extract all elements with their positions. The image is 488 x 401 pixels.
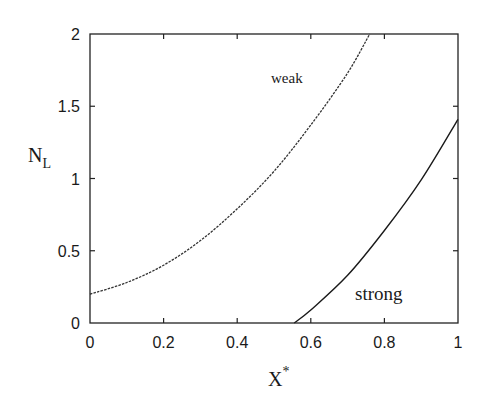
x-tick-label: 0.4	[226, 334, 248, 351]
x-axis-label-main: X	[268, 368, 283, 390]
y-axis-label-main: N	[28, 144, 42, 166]
y-tick-label: 0.5	[58, 243, 80, 260]
y-tick-label: 0	[71, 315, 80, 332]
weak-curve	[90, 34, 370, 294]
x-tick-label: 0	[86, 334, 95, 351]
y-axis-label: NL	[28, 144, 51, 171]
y-tick-label: 2	[71, 26, 80, 43]
x-tick-label: 1	[454, 334, 463, 351]
weak-curve-label: weak	[271, 70, 303, 86]
y-axis-label-sub: L	[42, 156, 51, 171]
strong-curve-label: strong	[355, 283, 403, 304]
y-tick-label: 1	[71, 171, 80, 188]
x-tick-label: 0.6	[300, 334, 322, 351]
x-axis-label-sup: *	[282, 364, 289, 379]
x-axis-label: X*	[268, 364, 289, 390]
x-tick-label: 0.2	[152, 334, 174, 351]
x-tick-label: 0.8	[373, 334, 395, 351]
chart: 00.20.40.60.8100.511.52 weak strong NL X…	[0, 0, 488, 401]
y-tick-label: 1.5	[58, 98, 80, 115]
